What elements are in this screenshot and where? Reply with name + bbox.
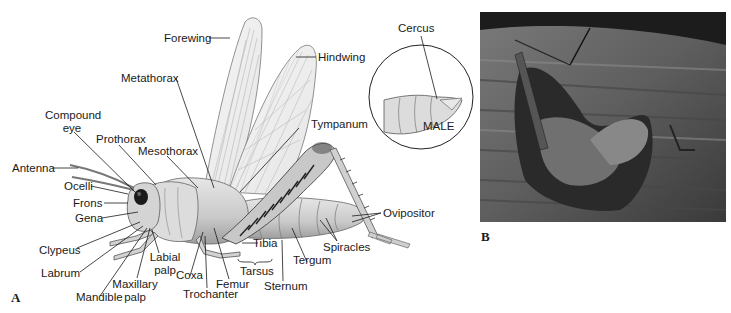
- label-labial-palp-1: Labial: [146, 251, 184, 263]
- label-male: MALE: [423, 120, 454, 132]
- label-mesothorax: Mesothorax: [138, 145, 198, 157]
- photo-mating-grasshoppers: [480, 12, 726, 222]
- panel-letter-a: A: [11, 290, 20, 306]
- label-tarsus: Tarsus: [240, 265, 274, 277]
- label-antenna: Antenna: [12, 162, 55, 174]
- grasshopper-anatomy-figure: Forewing Hindwing Metathorax Compound ey…: [0, 0, 731, 313]
- label-ocelli: Ocelli: [64, 180, 93, 192]
- label-sternum: Sternum: [264, 280, 307, 292]
- label-tympanum: Tympanum: [311, 118, 368, 130]
- label-tergum: Tergum: [293, 254, 331, 266]
- label-hindwing: Hindwing: [318, 51, 365, 63]
- label-frons: Frons: [73, 197, 102, 209]
- label-gena: Gena: [75, 212, 103, 224]
- label-labrum: Labrum: [41, 267, 80, 279]
- label-femur: Femur: [216, 278, 249, 290]
- label-maxillary-palp-1: Maxillary: [112, 278, 158, 290]
- label-cercus: Cercus: [398, 22, 434, 34]
- label-tibia: Tibia: [253, 237, 278, 249]
- label-ovipositor: Ovipositor: [383, 207, 435, 219]
- label-prothorax: Prothorax: [96, 133, 146, 145]
- grasshopper-illustration: [0, 0, 731, 313]
- label-forewing: Forewing: [164, 32, 211, 44]
- label-compound-eye-2: eye: [45, 122, 99, 134]
- label-coxa: Coxa: [176, 269, 203, 281]
- label-metathorax: Metathorax: [121, 72, 179, 84]
- panel-letter-b: B: [481, 229, 490, 245]
- label-compound-eye-1: Compound: [45, 109, 99, 121]
- label-clypeus: Clypeus: [39, 244, 81, 256]
- male-inset: [369, 36, 473, 149]
- label-maxillary-palp-2: palp: [112, 291, 158, 303]
- label-spiracles: Spiracles: [323, 241, 370, 253]
